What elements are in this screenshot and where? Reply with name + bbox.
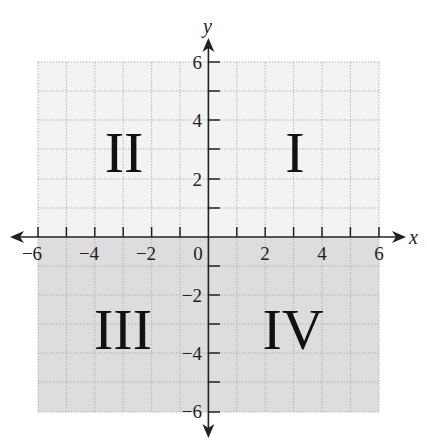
y-tick-label: 2 [193, 169, 203, 190]
coordinate-plane: −6 −4 −2 0 2 4 6 6 4 2 −2 −4 −6 x y II I… [0, 0, 427, 448]
y-axis-label: y [201, 15, 212, 38]
quadrant-label-ii: II [105, 120, 144, 185]
y-tick-label: 6 [193, 52, 203, 73]
x-tick-label: −2 [136, 243, 156, 264]
quadrant-label-iv: IV [262, 297, 323, 362]
x-tick-label: −6 [22, 243, 42, 264]
x-tick-label: 6 [374, 243, 384, 264]
x-tick-label: 0 [193, 243, 203, 264]
x-tick-label: −4 [79, 243, 100, 264]
y-tick-label: −2 [182, 285, 202, 306]
quadrant-label-i: I [285, 120, 304, 185]
quadrant-label-iii: III [94, 297, 152, 362]
x-tick-label: 2 [260, 243, 270, 264]
x-axis-label: x [408, 226, 418, 248]
y-tick-label: 4 [193, 110, 203, 131]
y-tick-label: −4 [182, 343, 203, 364]
y-tick-label: −6 [182, 401, 202, 422]
x-tick-label: 4 [317, 243, 327, 264]
